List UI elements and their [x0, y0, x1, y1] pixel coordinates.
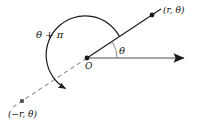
label-origin: O: [85, 62, 92, 71]
theta-arc: [112, 42, 117, 58]
point-positive-dot: [150, 13, 155, 18]
origin-dot: [85, 56, 90, 61]
label-angle-theta: θ: [119, 46, 125, 56]
point-negative-dot: [20, 99, 24, 103]
label-point-positive: (r, θ): [163, 6, 184, 15]
theta-plus-pi-arc: [46, 16, 120, 89]
label-angle-theta-plus-pi: θ + π: [36, 30, 63, 40]
polar-coordinate-figure: (r, θ) (−r, θ) θ + π θ O: [0, 0, 197, 131]
terminal-ray-negative: [13, 58, 87, 107]
label-point-negative: (−r, θ): [8, 110, 37, 119]
